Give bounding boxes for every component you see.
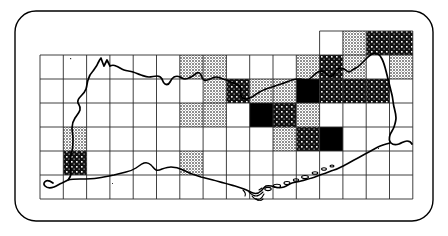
grid-cell xyxy=(63,151,86,175)
grid-cell xyxy=(180,55,203,79)
grid-cell xyxy=(366,79,389,103)
grid-cell xyxy=(250,103,273,127)
grid-cell xyxy=(320,127,343,151)
grid-cell xyxy=(63,127,86,151)
grid-cell xyxy=(343,55,366,79)
grid-cell xyxy=(320,79,343,103)
grid-cell xyxy=(203,55,226,79)
distribution-map-figure xyxy=(0,0,448,236)
grid-cell xyxy=(203,103,226,127)
grid-cell xyxy=(273,127,296,151)
grid-cell xyxy=(180,103,203,127)
grid-cell xyxy=(180,151,203,175)
grid-cell xyxy=(203,79,226,103)
grid-cell xyxy=(390,55,413,79)
grid-cell xyxy=(343,79,366,103)
grid-cell xyxy=(320,55,343,79)
grid-cell xyxy=(273,103,296,127)
grid-cell xyxy=(296,127,319,151)
grid-cell xyxy=(296,55,319,79)
map-svg xyxy=(0,0,448,236)
grid-cell xyxy=(343,31,366,55)
grid-cell xyxy=(296,79,319,103)
grid-cell xyxy=(390,31,413,55)
grid-cell xyxy=(366,31,389,55)
grid-cell xyxy=(296,103,319,127)
